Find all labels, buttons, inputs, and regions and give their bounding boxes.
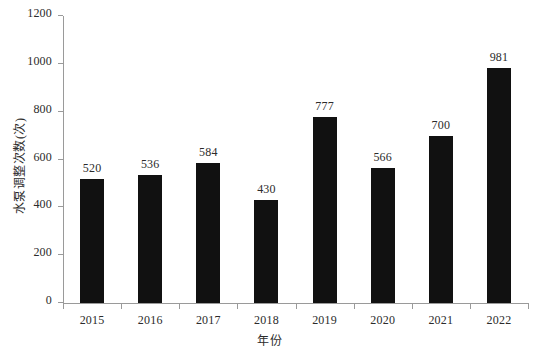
bar-value-label: 536: [121, 158, 179, 171]
y-tick-label: 600: [33, 151, 52, 163]
bar: [254, 200, 278, 303]
bar: [487, 68, 511, 303]
y-tick-mark: [58, 111, 63, 112]
y-tick-mark: [58, 206, 63, 207]
y-tick-mark: [58, 15, 63, 16]
y-tick-label: 1200: [27, 7, 52, 19]
bar: [371, 168, 395, 303]
x-tick-label: 2022: [470, 313, 528, 327]
bar-value-label: 520: [63, 162, 121, 175]
bar-value-label: 777: [296, 100, 354, 113]
x-tick-label: 2015: [63, 313, 121, 327]
x-tick-mark: [354, 304, 355, 309]
y-axis-title: 水泵调整次数(次): [14, 14, 27, 214]
x-tick-label: 2016: [121, 313, 179, 327]
y-tick-label: 800: [33, 103, 52, 115]
bar-value-label: 430: [237, 183, 295, 196]
x-tick-mark: [528, 304, 529, 309]
x-tick-label: 2019: [296, 313, 354, 327]
x-tick-label: 2020: [354, 313, 412, 327]
bar: [80, 179, 104, 303]
x-tick-label: 2018: [237, 313, 295, 327]
y-tick-mark: [58, 63, 63, 64]
y-tick-label: 0: [46, 294, 52, 306]
bar: [429, 136, 453, 303]
y-axis-line: [63, 16, 64, 304]
bar-value-label: 584: [179, 146, 237, 159]
y-tick-label: 1000: [27, 55, 52, 67]
x-tick-mark: [237, 304, 238, 309]
y-tick-label: 200: [33, 246, 52, 258]
x-tick-mark: [296, 304, 297, 309]
bar: [313, 117, 337, 303]
x-tick-mark: [63, 304, 64, 309]
x-axis-title: 年份: [0, 334, 539, 348]
bar-value-label: 700: [412, 119, 470, 132]
x-tick-mark: [470, 304, 471, 309]
y-tick-mark: [58, 302, 63, 303]
x-tick-mark: [179, 304, 180, 309]
x-tick-label: 2017: [179, 313, 237, 327]
y-tick-label: 400: [33, 198, 52, 210]
bar-chart: 020040060080010001200 201520162017201820…: [0, 0, 539, 360]
bar-value-label: 566: [354, 151, 412, 164]
y-tick-mark: [58, 159, 63, 160]
y-tick-mark: [58, 254, 63, 255]
x-tick-mark: [121, 304, 122, 309]
x-tick-label: 2021: [412, 313, 470, 327]
x-tick-mark: [412, 304, 413, 309]
bar: [196, 163, 220, 303]
bar-value-label: 981: [470, 51, 528, 64]
bar: [138, 175, 162, 303]
